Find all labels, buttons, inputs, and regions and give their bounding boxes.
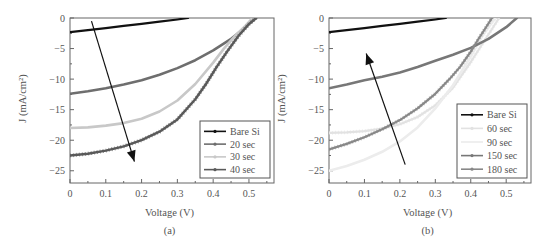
y-tick-label: −25	[49, 165, 65, 176]
panel-label: (a)	[164, 225, 176, 237]
x-tick-label: 0.3	[171, 188, 184, 199]
y-tick-label: 0	[319, 13, 324, 24]
y-axis-label: J (mA/cm²)	[276, 74, 288, 123]
series-line	[329, 18, 446, 32]
x-tick-label: 0.1	[358, 188, 371, 199]
y-tick-label: −20	[308, 135, 324, 146]
y-tick-label: −15	[49, 104, 65, 115]
x-axis-label: Voltage (V)	[403, 207, 453, 219]
y-tick-label: −5	[54, 43, 65, 54]
y-tick-label: −10	[49, 74, 65, 85]
legend-entry: Bare Si	[230, 126, 260, 137]
x-tick-label: 0.2	[394, 188, 407, 199]
legend-entry: 150 sec	[487, 150, 518, 161]
x-tick-label: 0.5	[500, 188, 513, 199]
legend-entry: 60 sec	[487, 123, 513, 134]
legend-entry: 30 sec	[230, 151, 256, 162]
y-tick-label: −10	[308, 74, 324, 85]
x-tick-label: 0.4	[207, 188, 220, 199]
chart-panel-b: 00.10.20.30.40.50−5−10−15−20−25Voltage (…	[259, 0, 534, 249]
x-tick-label: 0.3	[429, 188, 442, 199]
series-line	[70, 18, 188, 32]
x-tick-label: 0.2	[135, 188, 148, 199]
jv-chart-a: 00.10.20.30.40.50−5−10−15−20−25Voltage (…	[0, 0, 275, 249]
legend-entry: 90 sec	[487, 137, 513, 148]
trend-arrow	[366, 53, 405, 164]
x-tick-label: 0.4	[465, 188, 478, 199]
x-tick-label: 0	[68, 188, 73, 199]
jv-chart-b: 00.10.20.30.40.50−5−10−15−20−25Voltage (…	[259, 0, 534, 249]
x-tick-label: 0.5	[243, 188, 256, 199]
y-tick-label: −5	[313, 43, 324, 54]
legend-entry: 20 sec	[230, 139, 256, 150]
y-tick-label: −15	[308, 104, 324, 115]
x-tick-label: 0.1	[100, 188, 113, 199]
trend-arrow	[91, 21, 134, 162]
arrow-head-icon	[366, 53, 374, 65]
legend: Bare Si60 sec90 sec150 sec180 sec	[457, 104, 527, 178]
arrow-head-icon	[127, 150, 136, 162]
y-tick-label: −25	[308, 165, 324, 176]
legend-entry: Bare Si	[487, 109, 517, 120]
legend-entry: 40 sec	[230, 164, 256, 175]
x-axis-label: Voltage (V)	[145, 207, 195, 219]
x-tick-label: 0	[327, 188, 332, 199]
y-axis-label: J (mA/cm²)	[17, 74, 29, 123]
y-tick-label: 0	[60, 13, 65, 24]
legend-entry: 180 sec	[487, 164, 518, 175]
y-tick-label: −20	[49, 135, 65, 146]
panel-label: (b)	[421, 225, 434, 237]
chart-panel-a: 00.10.20.30.40.50−5−10−15−20−25Voltage (…	[0, 0, 275, 249]
